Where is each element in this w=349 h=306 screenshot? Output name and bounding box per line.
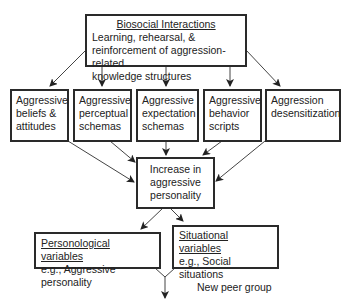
biosocial-interactions-box: Biosocial Interactions Learning, rehears… <box>85 14 247 67</box>
box-line: desensitization <box>271 107 335 120</box>
situational-title: Situational variables <box>179 229 272 255</box>
box-line: Aggressive <box>16 94 63 107</box>
biosocial-title: Biosocial Interactions <box>92 18 240 31</box>
diagram-canvas: Biosocial Interactions Learning, rehears… <box>0 0 349 306</box>
aggressive-behavior-scripts-box: Aggressive behavior scripts <box>203 89 262 142</box>
personological-variables-box: Personological variables e.g., Aggressiv… <box>34 232 161 269</box>
personological-title: Personological variables <box>41 237 154 263</box>
box-line: scripts <box>209 120 256 133</box>
box-line: Aggressive <box>79 94 126 107</box>
box-line: beliefs & <box>16 107 63 120</box>
box-line: schemas <box>79 120 126 133</box>
aggressive-expectation-schemas-box: Aggressive expectation schemas <box>136 89 199 142</box>
box-line: aggressive <box>142 176 209 189</box>
box-line: perceptual <box>79 107 126 120</box>
box-line: Aggression <box>271 94 335 107</box>
situational-variables-box: Situational variables e.g., Social situa… <box>172 225 279 269</box>
box-line: e.g., Aggressive personality <box>41 263 154 289</box>
biosocial-line-3: knowledge structures <box>92 70 240 83</box>
box-line: schemas <box>142 120 193 133</box>
biosocial-line-2: reinforcement of aggression-related <box>92 44 240 70</box>
box-line: expectation <box>142 107 193 120</box>
biosocial-line-1: Learning, rehearsal, & <box>92 31 240 44</box>
box-line: Aggressive <box>142 94 193 107</box>
box-line: behavior <box>209 107 256 120</box>
box-line: Aggressive <box>209 94 256 107</box>
box-line: New peer group <box>179 281 272 294</box>
box-line: e.g., Social situations <box>179 255 272 281</box>
aggressive-perceptual-schemas-box: Aggressive perceptual schemas <box>73 89 132 142</box>
box-line: Increase in <box>142 163 209 176</box>
aggression-desensitization-box: Aggression desensitization <box>265 89 341 142</box>
increase-aggressive-personality-box: Increase in aggressive personality <box>136 157 215 209</box>
box-line: personality <box>142 189 209 202</box>
box-line: attitudes <box>16 120 63 133</box>
aggressive-beliefs-box: Aggressive beliefs & attitudes <box>10 89 69 142</box>
